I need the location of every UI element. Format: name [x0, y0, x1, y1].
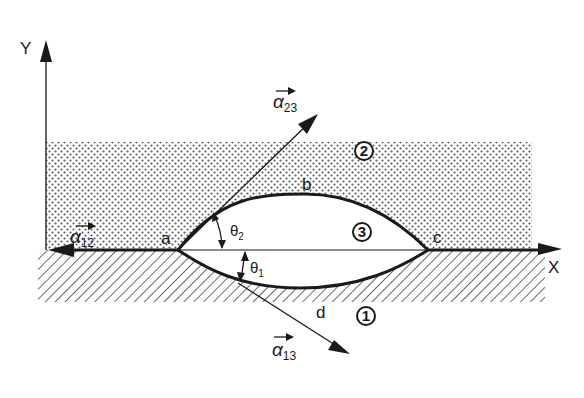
point-a-label: a — [161, 229, 171, 248]
svg-text:3: 3 — [358, 223, 366, 240]
point-c-label: c — [433, 228, 442, 247]
alpha12-label: α12 — [70, 222, 96, 250]
alpha23-label: α23 — [273, 87, 298, 115]
svg-text:1: 1 — [362, 307, 370, 324]
x-axis-label: X — [548, 258, 559, 277]
phase-2-marker: 2 — [355, 142, 373, 160]
svg-text:α23: α23 — [273, 91, 298, 115]
svg-text:2: 2 — [360, 142, 368, 159]
svg-text:α13: α13 — [272, 339, 297, 363]
point-b-label: b — [302, 175, 311, 194]
phase-1-marker: 1 — [357, 307, 375, 325]
y-axis-label: Y — [20, 39, 31, 58]
three-phase-lens-diagram: Y X α12 α23 α13 θ2 — [0, 0, 584, 398]
alpha13-label: α13 — [272, 333, 297, 363]
point-d-label: d — [316, 303, 325, 322]
phase-3-marker: 3 — [353, 223, 371, 241]
